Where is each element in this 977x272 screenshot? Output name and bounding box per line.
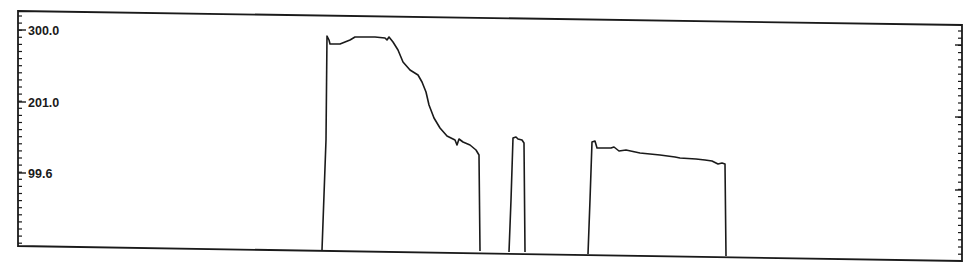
line-chart: 300.0 201.0 99.6	[0, 0, 977, 272]
y-tick-label-300: 300.0	[28, 24, 59, 38]
plot-frame	[18, 11, 962, 261]
y-tick-label-99: 99.6	[28, 167, 52, 181]
y-tick-label-201: 201.0	[28, 96, 59, 110]
data-trace	[322, 36, 726, 256]
